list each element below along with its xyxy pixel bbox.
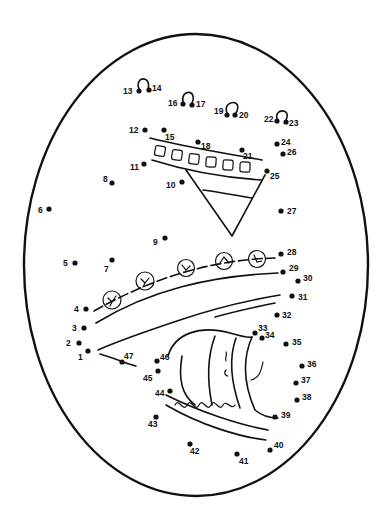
dot-number-label: 17 — [196, 99, 206, 109]
dot-39: 39 — [272, 410, 290, 420]
dot-number-label: 25 — [270, 171, 280, 181]
dot-number-label: 18 — [201, 141, 211, 151]
dot-marker — [180, 101, 185, 106]
dot-marker — [167, 388, 172, 393]
dot-marker — [264, 168, 269, 173]
dot-number-label: 22 — [264, 114, 274, 124]
dot-27: 27 — [278, 206, 296, 216]
dot-number-label: 29 — [289, 263, 299, 273]
dot-number-label: 19 — [214, 106, 224, 116]
dot-12: 12 — [129, 125, 148, 135]
dot-marker — [109, 257, 114, 262]
dot-marker — [189, 102, 194, 107]
middle-band — [94, 251, 278, 324]
dot-to-dot-egg-puzzle: 1234567891011121314151617181920212223242… — [0, 0, 391, 525]
dot-35: 35 — [283, 337, 301, 347]
dot-number-label: 15 — [165, 132, 175, 142]
loop-19-20 — [226, 102, 238, 113]
dot-8: 8 — [103, 174, 115, 186]
dot-number-label: 2 — [66, 338, 71, 348]
dot-24: 24 — [274, 137, 290, 147]
lower-shape — [166, 330, 278, 440]
dot-43: 43 — [148, 414, 159, 429]
dot-4: 4 — [74, 304, 89, 314]
dot-2: 2 — [66, 338, 82, 348]
dot-number-label: 8 — [103, 174, 108, 184]
dot-marker — [195, 139, 200, 144]
dot-marker — [274, 141, 279, 146]
dot-number-label: 44 — [155, 388, 165, 398]
dot-number-label: 27 — [287, 206, 297, 216]
dot-46: 46 — [154, 352, 169, 364]
dot-marker — [46, 206, 51, 211]
dot-number-label: 43 — [148, 419, 158, 429]
dot-marker — [81, 325, 86, 330]
dot-marker — [274, 118, 279, 123]
dot-10: 10 — [166, 179, 185, 190]
dot-number-label: 35 — [292, 337, 302, 347]
dot-marker — [280, 269, 285, 274]
dot-1: 1 — [78, 348, 91, 362]
dot-marker — [295, 278, 300, 283]
dot-3: 3 — [72, 323, 87, 333]
dot-marker — [259, 335, 264, 340]
dot-number-label: 47 — [124, 351, 134, 361]
dot-number-label: 36 — [307, 359, 317, 369]
dot-30: 30 — [295, 273, 312, 284]
dot-number-label: 23 — [289, 118, 299, 128]
dot-number-label: 14 — [152, 83, 162, 93]
dot-18: 18 — [195, 139, 210, 151]
dot-marker — [299, 363, 304, 368]
dot-marker — [224, 112, 229, 117]
loop-16-17 — [183, 92, 194, 103]
dot-marker — [85, 348, 90, 353]
dot-marker — [232, 112, 237, 117]
dot-number-label: 30 — [303, 273, 313, 283]
dot-40: 40 — [267, 440, 283, 453]
dot-marker — [289, 293, 294, 298]
dot-number-label: 37 — [301, 375, 311, 385]
dot-number-label: 12 — [129, 125, 139, 135]
dot-marker — [252, 330, 257, 335]
dot-number-label: 6 — [38, 205, 43, 215]
dot-marker — [293, 380, 298, 385]
dot-31: 31 — [289, 292, 307, 302]
dot-marker — [283, 341, 288, 346]
dot-number-label: 9 — [153, 237, 158, 247]
dot-marker — [146, 87, 151, 92]
dot-marker — [141, 161, 146, 166]
dot-marker — [76, 340, 81, 345]
dot-number-label: 32 — [282, 310, 292, 320]
dot-23: 23 — [283, 118, 298, 128]
dot-marker — [83, 306, 88, 311]
dot-41: 41 — [234, 451, 248, 466]
dot-25: 25 — [264, 168, 279, 181]
dot-number-label: 40 — [274, 440, 284, 450]
dot-marker — [162, 235, 167, 240]
dot-21: 21 — [239, 147, 252, 161]
dot-15: 15 — [161, 127, 174, 142]
dot-20: 20 — [232, 110, 248, 120]
dot-marker — [278, 208, 283, 213]
dot-number-label: 1 — [78, 352, 83, 362]
dot-32: 32 — [274, 310, 291, 320]
dot-number-label: 28 — [287, 247, 297, 257]
dot-number-label: 24 — [281, 137, 291, 147]
dot-number-label: 21 — [243, 151, 253, 161]
dot-marker — [142, 127, 147, 132]
loop-13-14 — [138, 79, 148, 89]
dot-marker — [154, 358, 159, 363]
dot-marker — [278, 251, 283, 256]
dot-marker — [280, 151, 285, 156]
dot-number-label: 46 — [160, 352, 170, 362]
dot-marker — [136, 88, 141, 93]
dot-36: 36 — [299, 359, 316, 369]
dot-marker — [155, 368, 160, 373]
dot-marker — [179, 179, 184, 184]
dot-number-label: 13 — [123, 86, 133, 96]
dot-number-label: 42 — [190, 446, 200, 456]
dot-marker — [72, 260, 77, 265]
dot-number-label: 5 — [63, 258, 68, 268]
dot-number-label: 31 — [298, 292, 308, 302]
dot-number-label: 11 — [130, 162, 139, 172]
